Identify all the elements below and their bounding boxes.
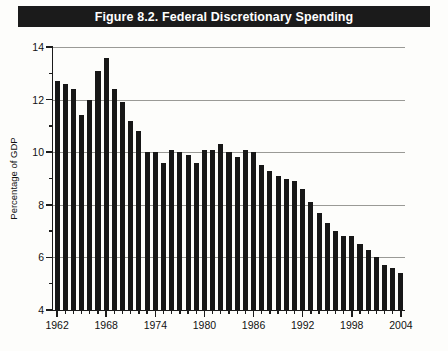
bar-1971 (128, 121, 133, 310)
x-tick-1991 (294, 310, 295, 314)
bar-1994 (317, 213, 322, 310)
x-tick-2001 (376, 310, 377, 314)
bar-2000 (366, 250, 371, 310)
bar-1991 (292, 181, 297, 310)
page-title: Figure 8.2. Federal Discretionary Spendi… (95, 10, 353, 24)
bar-1986 (251, 152, 256, 310)
x-tick-1971 (130, 310, 131, 314)
y-axis-title: Percentage of GDP (6, 47, 20, 310)
y-tick-minor-7 (49, 230, 53, 231)
bar-1967 (95, 71, 100, 310)
x-tick-1977 (179, 310, 180, 314)
x-tick-1985 (245, 310, 246, 314)
bar-1976 (169, 150, 174, 310)
x-tick-1999 (359, 310, 360, 314)
x-tick-1967 (97, 310, 98, 314)
x-tick-1964 (73, 310, 74, 314)
x-tick-2000 (368, 310, 369, 314)
x-tick-1965 (81, 310, 82, 314)
x-axis-label-1980: 1980 (193, 319, 216, 331)
bar-1989 (276, 176, 281, 310)
figure-title-banner: Figure 8.2. Federal Discretionary Spendi… (18, 6, 430, 27)
plot-area: 4681012141962196819741980198619921998200… (53, 47, 405, 310)
bar-1981 (210, 150, 215, 310)
x-axis-label-1968: 1968 (95, 319, 118, 331)
bar-1979 (194, 163, 199, 310)
y-tick-minor-11 (49, 125, 53, 126)
x-tick-1987 (261, 310, 262, 314)
bar-1965 (79, 115, 84, 310)
bar-1998 (349, 236, 354, 310)
x-tick-1997 (343, 310, 344, 314)
x-tick-major-1992 (302, 310, 304, 317)
y-tick-minor-13 (49, 73, 53, 74)
y-tick-10 (46, 151, 53, 153)
bar-1985 (243, 150, 248, 310)
x-axis-label-1998: 1998 (340, 319, 363, 331)
bar-1970 (120, 102, 125, 310)
x-tick-1990 (286, 310, 287, 314)
x-tick-1996 (335, 310, 336, 314)
y-tick-6 (46, 257, 53, 259)
y-axis-label-8: 8 (38, 199, 44, 211)
x-tick-major-1986 (253, 310, 255, 317)
bar-1995 (325, 223, 330, 310)
bar-2003 (390, 268, 395, 310)
y-axis-label-4: 4 (38, 304, 44, 316)
bar-1972 (136, 131, 141, 310)
bar-1980 (202, 150, 207, 310)
x-tick-1970 (122, 310, 123, 314)
bar-1999 (357, 244, 362, 310)
gridline-y-14 (53, 47, 405, 48)
bar-1966 (87, 100, 92, 310)
y-axis-label-12: 12 (32, 94, 44, 106)
bar-2004 (398, 273, 403, 310)
bar-1988 (267, 171, 272, 310)
x-tick-2002 (384, 310, 385, 314)
y-axis-label-14: 14 (32, 41, 44, 53)
bar-1973 (145, 152, 150, 310)
y-tick-8 (46, 204, 53, 206)
bar-1977 (177, 152, 182, 310)
x-tick-major-1980 (204, 310, 206, 317)
x-tick-1989 (277, 310, 278, 314)
bar-1974 (153, 152, 158, 310)
x-axis-label-1992: 1992 (291, 319, 314, 331)
bar-1983 (226, 152, 231, 310)
x-tick-1982 (220, 310, 221, 314)
x-tick-1972 (138, 310, 139, 314)
x-tick-major-1974 (155, 310, 157, 317)
y-tick-minor-5 (49, 283, 53, 284)
x-tick-major-1962 (56, 310, 58, 317)
x-tick-1973 (146, 310, 147, 314)
x-axis-label-1974: 1974 (144, 319, 167, 331)
x-tick-major-1968 (105, 310, 107, 317)
x-tick-1995 (327, 310, 328, 314)
bar-1996 (333, 231, 338, 310)
bar-1984 (235, 157, 240, 310)
bar-1990 (284, 179, 289, 311)
x-tick-2003 (392, 310, 393, 314)
plot-frame: 4681012141962196819741980198619921998200… (52, 47, 405, 311)
x-tick-1978 (187, 310, 188, 314)
x-tick-1983 (228, 310, 229, 314)
x-tick-major-2004 (400, 310, 402, 317)
x-tick-1981 (212, 310, 213, 314)
x-tick-1975 (163, 310, 164, 314)
bar-2001 (374, 257, 379, 310)
x-tick-major-1998 (351, 310, 353, 317)
x-tick-1979 (196, 310, 197, 314)
y-tick-14 (46, 46, 53, 48)
bar-1993 (308, 202, 313, 310)
bar-1964 (71, 89, 76, 310)
bar-1975 (161, 163, 166, 310)
x-tick-1993 (310, 310, 311, 314)
bar-1992 (300, 189, 305, 310)
y-tick-minor-9 (49, 178, 53, 179)
x-tick-1963 (65, 310, 66, 314)
bar-2002 (382, 265, 387, 310)
x-axis-label-1962: 1962 (45, 319, 68, 331)
x-tick-1966 (89, 310, 90, 314)
bar-1982 (218, 144, 223, 310)
bar-1987 (259, 165, 264, 310)
